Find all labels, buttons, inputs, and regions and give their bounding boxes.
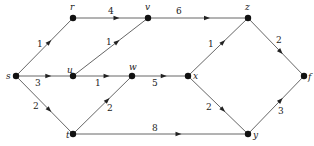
- edge-weight: 8: [152, 123, 158, 133]
- node-label: w: [129, 62, 137, 72]
- node-dot: [129, 73, 135, 79]
- node-r: r: [70, 2, 76, 21]
- nodes: srvzuwxfty: [6, 2, 313, 140]
- arrowhead-icon: [176, 132, 182, 136]
- edge-z-f: 2: [248, 18, 304, 76]
- node-label: z: [244, 2, 250, 12]
- edge-y-f: 3: [248, 76, 304, 134]
- arrowhead-icon: [204, 16, 210, 20]
- node-label: x: [193, 71, 198, 81]
- edge-u-v: 1: [73, 18, 148, 76]
- edge-weight: 2: [107, 103, 113, 113]
- edge-v-z: 6: [148, 6, 248, 20]
- edge-weight: 5: [152, 78, 158, 88]
- edge-line: [188, 76, 248, 134]
- node-dot: [245, 15, 251, 21]
- edge-line: [248, 76, 304, 134]
- node-label: t: [66, 130, 70, 140]
- edge-t-w: 2: [73, 76, 132, 134]
- arrowhead-icon: [113, 40, 119, 45]
- node-dot: [70, 131, 76, 137]
- arrowhead-icon: [161, 74, 167, 78]
- edge-weight: 6: [176, 6, 182, 16]
- edge-line: [16, 76, 73, 134]
- node-label: f: [307, 72, 313, 82]
- node-w: w: [129, 62, 137, 79]
- edge-weight: 2: [206, 102, 212, 112]
- arrowhead-icon: [45, 74, 51, 78]
- edge-u-w: 1: [73, 74, 132, 88]
- node-dot: [145, 15, 151, 21]
- edge-r-v: 4: [73, 6, 148, 20]
- edge-weight: 1: [95, 78, 101, 88]
- arrowhead-icon: [104, 74, 110, 78]
- node-v: v: [145, 2, 151, 21]
- edge-line: [16, 18, 73, 76]
- edge-weight: 1: [106, 37, 112, 47]
- edge-x-y: 2: [188, 76, 248, 134]
- edge-weight: 2: [276, 35, 282, 45]
- edge-line: [73, 18, 148, 76]
- node-dot: [245, 131, 251, 137]
- edge-weight: 4: [108, 6, 114, 16]
- edge-x-z: 1: [188, 18, 248, 76]
- edge-weight: 1: [208, 39, 214, 49]
- node-f: f: [301, 72, 313, 82]
- node-dot: [13, 73, 19, 79]
- edge-t-y: 8: [73, 123, 248, 136]
- node-u: u: [67, 65, 76, 79]
- edge-s-u: 3: [16, 74, 73, 88]
- node-s: s: [6, 71, 19, 81]
- edge-line: [248, 18, 304, 76]
- node-dot: [185, 73, 191, 79]
- node-dot: [301, 73, 307, 79]
- arrowhead-icon: [114, 16, 120, 20]
- edges: 13241126512823: [16, 6, 304, 136]
- edge-s-t: 2: [16, 76, 73, 134]
- edge-weight: 2: [33, 101, 39, 111]
- edge-line: [188, 18, 248, 76]
- edge-weight: 3: [278, 106, 284, 116]
- edge-weight: 3: [35, 78, 41, 88]
- edge-s-r: 1: [16, 18, 73, 76]
- edge-w-x: 5: [132, 74, 188, 88]
- graph-diagram: 13241126512823 srvzuwxfty: [0, 0, 314, 146]
- node-t: t: [66, 130, 76, 140]
- node-label: y: [252, 130, 259, 140]
- node-label: s: [6, 71, 11, 81]
- node-dot: [70, 15, 76, 21]
- node-label: r: [70, 2, 75, 12]
- node-label: v: [145, 2, 150, 12]
- edge-weight: 1: [37, 39, 43, 49]
- node-y: y: [245, 130, 259, 140]
- node-z: z: [244, 2, 251, 21]
- node-label: u: [67, 65, 73, 75]
- edge-line: [73, 76, 132, 134]
